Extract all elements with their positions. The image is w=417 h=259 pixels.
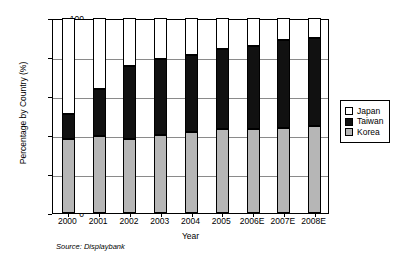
bar-2001[interactable] xyxy=(93,20,106,213)
y-axis-title: Percentage by Country (%) xyxy=(18,28,28,198)
bar-segment-japan-2006E[interactable] xyxy=(247,18,260,46)
bar-2005[interactable] xyxy=(216,20,229,213)
y-tick-mark-40 xyxy=(48,136,52,137)
legend-swatch-korea-icon xyxy=(345,128,353,136)
bar-2003[interactable] xyxy=(154,20,167,213)
bar-segment-korea-2006E[interactable] xyxy=(247,129,260,213)
chart-legend: JapanTaiwanKorea xyxy=(340,100,390,143)
legend-label-taiwan: Taiwan xyxy=(357,117,383,126)
legend-item-japan[interactable]: Japan xyxy=(345,107,383,116)
bar-segment-korea-2001[interactable] xyxy=(93,136,106,213)
bar-segment-japan-2003[interactable] xyxy=(154,18,167,59)
y-tick-mark-100 xyxy=(48,19,52,20)
bar-segment-japan-2002[interactable] xyxy=(123,18,136,66)
bar-segment-japan-2000[interactable] xyxy=(62,18,75,114)
x-axis-title: Year xyxy=(52,231,329,241)
y-tick-mark-80 xyxy=(48,58,52,59)
bar-segment-korea-2000[interactable] xyxy=(62,139,75,213)
bar-segment-taiwan-2006E[interactable] xyxy=(247,46,260,129)
bar-segment-japan-2001[interactable] xyxy=(93,18,106,89)
bar-2007E[interactable] xyxy=(277,20,290,213)
bar-segment-taiwan-2001[interactable] xyxy=(93,89,106,136)
bar-segment-taiwan-2007E[interactable] xyxy=(277,40,290,128)
bar-segment-japan-2007E[interactable] xyxy=(277,18,290,40)
bar-segment-taiwan-2002[interactable] xyxy=(123,66,136,139)
bar-segment-korea-2007E[interactable] xyxy=(277,128,290,213)
legend-label-japan: Japan xyxy=(357,107,380,116)
bar-segment-korea-2002[interactable] xyxy=(123,139,136,213)
y-tick-mark-0 xyxy=(48,214,52,215)
bar-segment-korea-2005[interactable] xyxy=(216,129,229,213)
plot-inner xyxy=(53,20,328,213)
plot-area xyxy=(52,19,329,214)
bar-segment-korea-2008E[interactable] xyxy=(308,126,321,213)
bar-2004[interactable] xyxy=(185,20,198,213)
x-tick-label-2008E: 2008E xyxy=(291,217,337,226)
y-tick-mark-20 xyxy=(48,175,52,176)
bar-segment-japan-2008E[interactable] xyxy=(308,18,321,38)
legend-swatch-taiwan-icon xyxy=(345,118,353,126)
bar-segment-korea-2004[interactable] xyxy=(185,132,198,213)
legend-swatch-japan-icon xyxy=(345,107,353,115)
bar-2000[interactable] xyxy=(62,20,75,213)
legend-item-korea[interactable]: Korea xyxy=(345,128,383,137)
legend-item-taiwan[interactable]: Taiwan xyxy=(345,117,383,126)
bar-segment-taiwan-2005[interactable] xyxy=(216,49,229,129)
bar-segment-taiwan-2004[interactable] xyxy=(185,55,198,132)
bar-segment-taiwan-2008E[interactable] xyxy=(308,38,321,127)
bar-segment-taiwan-2003[interactable] xyxy=(154,59,167,135)
legend-label-korea: Korea xyxy=(357,128,380,137)
bar-segment-korea-2003[interactable] xyxy=(154,135,167,213)
bar-segment-japan-2005[interactable] xyxy=(216,18,229,49)
source-note: Source: Displaybank xyxy=(56,242,125,251)
stacked-bar-chart-figure: Percentage by Country (%) 020406080100 2… xyxy=(0,0,417,259)
y-tick-mark-60 xyxy=(48,97,52,98)
bar-2006E[interactable] xyxy=(247,20,260,213)
bar-2008E[interactable] xyxy=(308,20,321,213)
bar-2002[interactable] xyxy=(123,20,136,213)
bar-segment-japan-2004[interactable] xyxy=(185,18,198,55)
bar-segment-taiwan-2000[interactable] xyxy=(62,114,75,139)
